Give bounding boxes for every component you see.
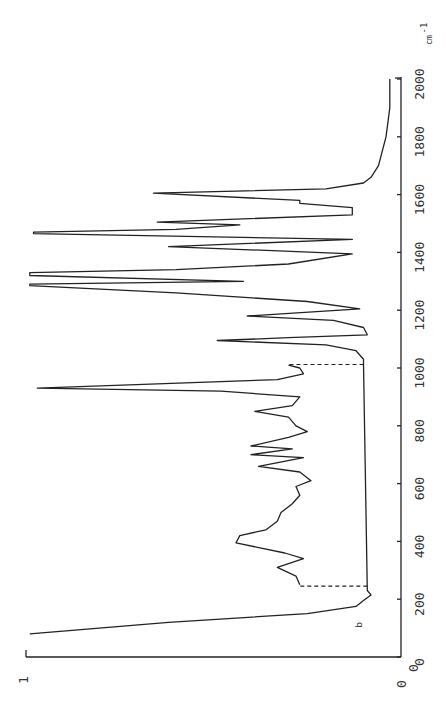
spectrum-chart: 0200400600800100012001400160018002000 0 … — [0, 0, 446, 712]
wavenumber-tick-label: 1200 — [412, 300, 427, 331]
spectrum-traces — [30, 79, 390, 634]
wavenumber-tick-label: 1800 — [412, 126, 427, 157]
wavenumber-tick-label: 800 — [412, 419, 427, 442]
intensity-label-0-outer: 0 — [394, 680, 409, 688]
wavenumber-tick-label: 600 — [412, 477, 427, 500]
spectrum-line — [37, 365, 311, 585]
wavenumber-tick-labels: 0200400600800100012001400160018002000 — [412, 68, 427, 666]
unit-text: cm — [425, 35, 434, 45]
wavenumber-tick-label: 200 — [412, 592, 427, 615]
unit-exponent: -1 — [419, 23, 429, 34]
axes — [26, 77, 401, 657]
spectrum-line — [30, 79, 390, 634]
wavenumber-tick-label: 1600 — [412, 184, 427, 215]
wavenumber-tick-label: 2000 — [412, 68, 427, 99]
intensity-label-1: 1 — [16, 676, 31, 684]
wavenumber-tick-label: 1000 — [412, 357, 427, 388]
unit-label: cm -1 — [419, 23, 434, 45]
wavenumber-tick-label: 400 — [412, 535, 427, 558]
curve-annotation-b: b — [354, 622, 364, 628]
wavenumber-tick-label: 1400 — [412, 242, 427, 273]
intensity-label-0: 0 — [406, 664, 421, 672]
